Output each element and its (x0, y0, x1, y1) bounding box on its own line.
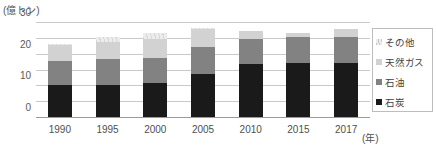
bar-segment-natural-gas (48, 45, 72, 61)
bar-segment-natural-gas (191, 29, 215, 46)
bar-segment-coal (48, 85, 72, 118)
x-axis-tick-label: 2000 (144, 124, 166, 135)
x-axis-tick-label: 2015 (287, 124, 309, 135)
bar-group: 2017 (334, 29, 358, 118)
legend-item-oil[interactable]: 石油 (376, 72, 432, 92)
legend-item-coal[interactable]: 石炭 (376, 92, 432, 112)
bar-group: 2005 (191, 28, 215, 118)
x-axis-tick-label: 2005 (192, 124, 214, 135)
legend-item-other[interactable]: その他 (376, 32, 432, 52)
legend-swatch-oil-icon (376, 79, 382, 85)
bar-group: 2000 (143, 33, 167, 118)
legend-label-other: その他 (385, 35, 414, 49)
bar-segment-natural-gas (143, 39, 167, 58)
legend-swatch-coal-icon (376, 99, 382, 105)
bar-segment-coal (286, 63, 310, 118)
bar-segment-natural-gas (96, 42, 120, 59)
bar-segment-oil (286, 37, 310, 62)
bar-segment-oil (48, 61, 72, 85)
energy-consumption-stacked-bar-chart: (億トン) 0102030405060 19901995200020052010… (0, 0, 436, 153)
bar-group: 1995 (96, 37, 120, 118)
x-axis-unit-label: (年) (362, 130, 379, 145)
bar-segment-natural-gas (334, 29, 358, 37)
bar-group: 1990 (48, 44, 72, 118)
bar-segment-oil (239, 39, 263, 64)
legend-label-oil: 石油 (385, 75, 405, 89)
y-axis-tick-label: 0 (25, 102, 31, 113)
legend-label-coal: 石炭 (385, 95, 405, 109)
y-axis-tick-label: 30 (20, 7, 31, 18)
legend-swatch-other-icon (376, 39, 382, 45)
legend-label-natural-gas: 天然ガス (385, 55, 424, 69)
bar-segment-oil (96, 59, 120, 84)
plot-area: 0102030405060 19901995200020052010201520… (36, 23, 370, 118)
bar-segment-coal (239, 64, 263, 118)
bar-segment-coal (96, 85, 120, 118)
legend-swatch-natural-gas-icon (376, 59, 382, 65)
chart-legend: その他 天然ガス 石油 石炭 (372, 28, 433, 112)
bar-segment-oil (334, 37, 358, 62)
y-axis-tick-label: 20 (20, 38, 31, 49)
bar-group: 2010 (239, 31, 263, 118)
legend-item-natural-gas[interactable]: 天然ガス (376, 52, 432, 72)
x-axis-tick-label: 1995 (96, 124, 118, 135)
bar-series-container: 1990199520002005201020152017 (36, 23, 370, 118)
bar-segment-coal (143, 83, 167, 118)
bar-group: 2015 (286, 33, 310, 118)
x-axis-tick-label: 1990 (49, 124, 71, 135)
x-axis-tick-label: 2017 (335, 124, 357, 135)
x-axis-tick-label: 2010 (240, 124, 262, 135)
bar-segment-coal (334, 63, 358, 118)
bar-segment-oil (191, 47, 215, 74)
x-axis-line (36, 117, 370, 118)
bar-segment-oil (143, 58, 167, 83)
bar-segment-natural-gas (239, 31, 263, 39)
y-axis-tick-label: 10 (20, 70, 31, 81)
bar-segment-coal (191, 74, 215, 118)
